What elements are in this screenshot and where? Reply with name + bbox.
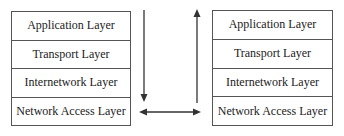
up-arrow-icon	[194, 9, 201, 103]
arrows-layer	[0, 0, 344, 136]
bidirectional-arrow-icon	[139, 109, 201, 116]
down-arrow-icon	[141, 10, 148, 102]
